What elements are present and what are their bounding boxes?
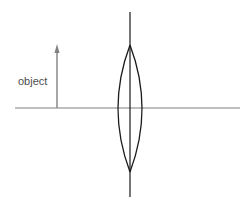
optics-diagram: object: [0, 0, 247, 205]
optics-diagram-canvas: object: [0, 0, 247, 205]
diagram-background: [0, 0, 247, 205]
object-label: object: [18, 75, 47, 87]
